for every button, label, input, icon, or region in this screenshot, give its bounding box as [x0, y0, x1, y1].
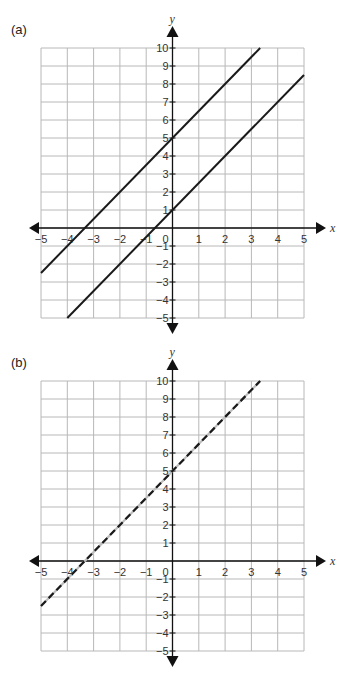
axes: xy−5−4−3−2−1012345−5−4−3−2−112345678910: [29, 345, 336, 667]
x-axis-right-arrow-icon: [316, 555, 326, 567]
x-tick-label: 1: [196, 566, 202, 578]
y-tick-label: 3: [162, 501, 168, 513]
y-axis-label: y: [169, 345, 176, 359]
y-axis-up-arrow-icon: [167, 359, 179, 370]
y-tick-label: −1: [156, 573, 169, 585]
y-axis-down-arrow-icon: [167, 656, 179, 667]
y-tick-label: −3: [156, 609, 169, 621]
y-tick-label: −5: [156, 645, 169, 657]
x-tick-label: 3: [248, 566, 254, 578]
y-tick-label: 1: [162, 537, 168, 549]
x-tick-label: 5: [301, 566, 307, 578]
y-tick-label: 8: [162, 411, 168, 423]
y-tick-label: −4: [156, 627, 169, 639]
y-tick-label: 4: [162, 483, 168, 495]
x-tick-label: −2: [114, 566, 127, 578]
chart-panel-b: xy−5−4−3−2−1012345−5−4−3−2−112345678910: [0, 0, 347, 685]
x-axis-label: x: [329, 554, 336, 568]
x-tick-label: −3: [87, 566, 100, 578]
x-tick-label: 2: [222, 566, 228, 578]
x-tick-label: 4: [275, 566, 281, 578]
y-tick-label: 9: [162, 393, 168, 405]
x-tick-label: −5: [35, 566, 48, 578]
y-tick-label: 6: [162, 447, 168, 459]
x-tick-label: −1: [140, 566, 153, 578]
y-tick-label: 7: [162, 429, 168, 441]
x-tick-label: −4: [61, 566, 74, 578]
y-tick-label: 10: [156, 375, 168, 387]
y-tick-label: 2: [162, 519, 168, 531]
y-tick-label: −2: [156, 591, 169, 603]
